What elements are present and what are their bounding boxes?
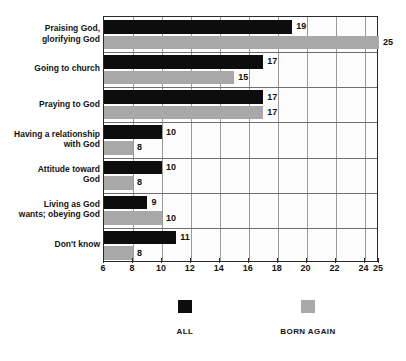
bar-group: 108: [104, 122, 377, 157]
x-axis-ticks: 68101214161820222425: [103, 263, 378, 279]
category-label: Having a relationship with God: [0, 129, 100, 150]
bar-all: [104, 231, 176, 245]
gray-square-swatch: [301, 300, 315, 313]
x-tick-label: 22: [330, 263, 340, 273]
bar-value-label: 17: [267, 93, 277, 102]
bar-all: [104, 55, 263, 69]
bar-all: [104, 161, 162, 175]
bar-born-again: [104, 141, 133, 155]
bar-value-label: 11: [180, 233, 190, 242]
bar-all: [104, 125, 162, 139]
x-tick-label: 18: [272, 263, 282, 273]
plot-area: 192517151717108108910118: [103, 16, 378, 262]
x-tick-label: 6: [100, 263, 105, 273]
category-label: Praising God, glorifying God: [0, 23, 100, 44]
bar-value-label: 8: [137, 178, 142, 187]
bar-all: [104, 90, 263, 104]
legend-item-born-again: BORN AGAIN: [268, 300, 348, 338]
x-tick-label: 14: [214, 263, 224, 273]
x-tick-label: 16: [243, 263, 253, 273]
category-axis-labels: Praising God, glorifying GodGoing to chu…: [0, 16, 100, 262]
bar-group: 118: [104, 228, 377, 263]
bar-value-label: 8: [137, 249, 142, 258]
bar-born-again: [104, 106, 263, 120]
x-tick-label: 20: [301, 263, 311, 273]
bar-group: 1715: [104, 52, 377, 87]
x-tick-label: 24: [359, 263, 369, 273]
bar-all: [104, 20, 292, 34]
x-tick-label: 8: [129, 263, 134, 273]
bar-value-label: 25: [383, 38, 393, 47]
bar-value-label: 19: [296, 22, 306, 31]
legend-item-all: ALL: [155, 300, 215, 338]
category-label: Attitude toward God: [0, 164, 100, 185]
bar-value-label: 17: [267, 108, 277, 117]
bar-born-again: [104, 36, 379, 50]
category-label: Praying to God: [0, 99, 100, 110]
bar-all: [104, 196, 147, 210]
bar-born-again: [104, 246, 133, 260]
bar-born-again: [104, 211, 162, 225]
bar-value-label: 15: [238, 73, 248, 82]
legend-label-born-again: BORN AGAIN: [280, 327, 335, 336]
bar-group: 910: [104, 193, 377, 228]
bar-born-again: [104, 176, 133, 190]
category-label: Going to church: [0, 63, 100, 74]
x-tick-label: 10: [156, 263, 166, 273]
x-tick-label: 12: [185, 263, 195, 273]
bar-value-label: 8: [137, 143, 142, 152]
bar-group: 1925: [104, 17, 377, 52]
bar-group: 108: [104, 158, 377, 193]
bar-value-label: 10: [166, 128, 176, 137]
black-square-swatch: [178, 300, 192, 313]
bar-born-again: [104, 71, 234, 85]
bar-value-label: 10: [166, 214, 176, 223]
bar-value-label: 9: [151, 198, 156, 207]
bar-value-label: 10: [166, 163, 176, 172]
category-label: Living as God wants; obeying God: [0, 199, 100, 220]
chart-legend: ALL BORN AGAIN: [0, 300, 406, 350]
bar-value-label: 17: [267, 57, 277, 66]
legend-label-all: ALL: [177, 327, 194, 336]
bar-group: 1717: [104, 87, 377, 122]
bar-chart: Praising God, glorifying GodGoing to chu…: [0, 0, 406, 361]
category-label: Don't know: [0, 239, 100, 250]
x-tick-label: 25: [373, 263, 383, 273]
